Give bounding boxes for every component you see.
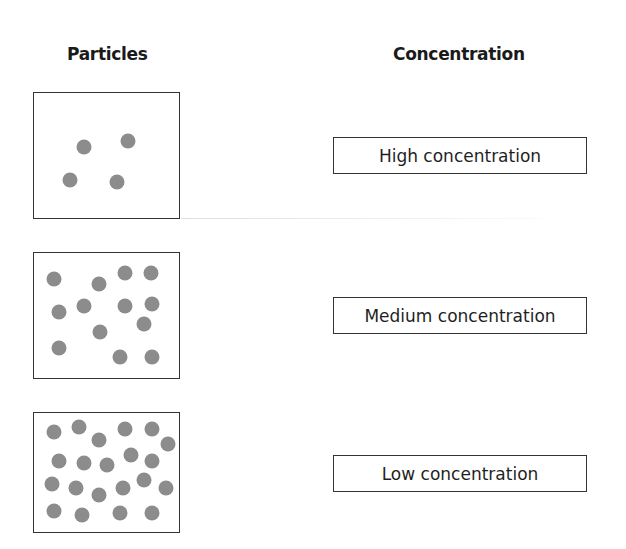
particle-dot: [161, 437, 176, 452]
particle-box-high: [33, 92, 180, 219]
particle-dot: [145, 454, 160, 469]
particle-dot: [77, 456, 92, 471]
particle-dot: [145, 422, 160, 437]
particle-dot: [69, 481, 84, 496]
particle-dot: [145, 350, 160, 365]
particles-heading: Particles: [67, 44, 148, 64]
particle-dot: [72, 420, 87, 435]
concentration-heading: Concentration: [393, 44, 525, 64]
label-medium-concentration: Medium concentration: [333, 297, 587, 334]
particle-dot: [118, 422, 133, 437]
particle-dot: [47, 504, 62, 519]
particle-dot: [77, 299, 92, 314]
particle-dot: [92, 277, 107, 292]
scan-artifact-line: [181, 218, 541, 219]
particle-dot: [144, 266, 159, 281]
particle-dot: [75, 508, 90, 523]
particle-dot: [118, 299, 133, 314]
particle-dot: [113, 506, 128, 521]
particle-dot: [45, 477, 60, 492]
particle-dot: [77, 140, 92, 155]
label-low-concentration: Low concentration: [333, 455, 587, 492]
particle-dot: [52, 305, 67, 320]
particle-dot: [110, 175, 125, 190]
particle-dot: [52, 454, 67, 469]
particle-dot: [116, 481, 131, 496]
particle-dot: [93, 325, 108, 340]
particle-dot: [92, 488, 107, 503]
particle-dot: [145, 506, 160, 521]
particle-dot: [47, 425, 62, 440]
particle-dot: [159, 481, 174, 496]
particle-box-low: [33, 412, 180, 533]
particle-dot: [92, 433, 107, 448]
particle-dot: [124, 448, 139, 463]
particle-box-medium: [33, 252, 180, 379]
label-high-concentration: High concentration: [333, 137, 587, 174]
particle-dot: [47, 272, 62, 287]
particle-dot: [137, 317, 152, 332]
particle-dot: [121, 134, 136, 149]
particle-dot: [52, 341, 67, 356]
particle-dot: [118, 266, 133, 281]
particle-dot: [137, 473, 152, 488]
particle-dot: [100, 458, 115, 473]
particle-dot: [63, 173, 78, 188]
particle-dot: [113, 350, 128, 365]
particle-dot: [145, 297, 160, 312]
